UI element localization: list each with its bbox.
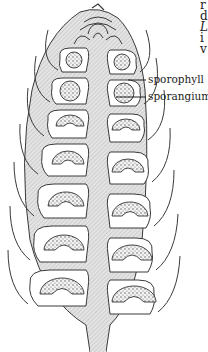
strobilus-diagram — [0, 0, 208, 352]
sporangium-label: sporangium — [148, 90, 208, 102]
cone-axis — [90, 40, 106, 352]
cropped-caption-text: r d L i v — [200, 0, 208, 55]
caption-fragment: v — [200, 44, 208, 55]
sporophyll-label: sporophyll — [148, 73, 204, 85]
